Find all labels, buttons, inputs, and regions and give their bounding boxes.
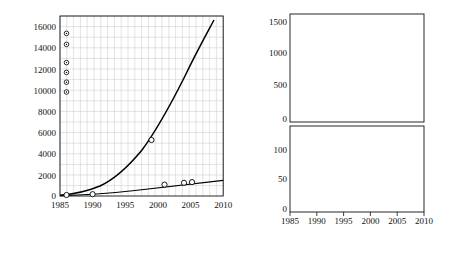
svg-text:2005: 2005 bbox=[182, 200, 201, 210]
milestone-marker-dot-icon bbox=[66, 44, 67, 45]
svg-text:2000: 2000 bbox=[361, 216, 380, 226]
svg-text:0: 0 bbox=[283, 204, 288, 214]
milestone-item bbox=[64, 90, 69, 95]
svg-text:2000: 2000 bbox=[149, 200, 168, 210]
svg-text:1990: 1990 bbox=[84, 200, 103, 210]
svg-text:2005: 2005 bbox=[388, 216, 407, 226]
svg-text:1995: 1995 bbox=[116, 200, 135, 210]
milestone-item bbox=[64, 70, 69, 75]
svg-text:8000: 8000 bbox=[38, 107, 57, 117]
svg-text:500: 500 bbox=[274, 80, 288, 90]
figure-root: 0 2000 4000 6000 8000 10000 12000 14000 … bbox=[0, 0, 452, 267]
svg-text:1990: 1990 bbox=[308, 216, 327, 226]
milestone-marker-dot-icon bbox=[66, 91, 67, 92]
marker-1999 bbox=[149, 137, 154, 142]
svg-text:14000: 14000 bbox=[34, 43, 57, 53]
milestone-item bbox=[64, 42, 69, 47]
svg-text:100: 100 bbox=[274, 145, 288, 155]
marker-2004 bbox=[181, 180, 186, 185]
background bbox=[0, 0, 452, 267]
svg-text:1985: 1985 bbox=[281, 216, 300, 226]
marker-1991 bbox=[90, 192, 95, 197]
svg-text:12000: 12000 bbox=[34, 65, 57, 75]
milestone-marker-dot-icon bbox=[66, 62, 67, 63]
milestone-marker-dot-icon bbox=[66, 72, 67, 73]
milestone-marker-dot-icon bbox=[66, 82, 67, 83]
svg-text:2000: 2000 bbox=[38, 171, 57, 181]
milestone-item bbox=[64, 31, 69, 36]
svg-text:2010: 2010 bbox=[415, 216, 434, 226]
svg-text:1985: 1985 bbox=[51, 200, 70, 210]
figure-svg: 0 2000 4000 6000 8000 10000 12000 14000 … bbox=[0, 0, 452, 267]
svg-text:10000: 10000 bbox=[34, 86, 57, 96]
marker-1986 bbox=[64, 192, 69, 197]
svg-text:0: 0 bbox=[283, 114, 288, 124]
svg-text:4000: 4000 bbox=[38, 149, 57, 159]
milestone-marker-dot-icon bbox=[66, 33, 67, 34]
svg-text:1995: 1995 bbox=[335, 216, 354, 226]
milestone-item bbox=[64, 60, 69, 65]
svg-text:2010: 2010 bbox=[214, 200, 233, 210]
svg-text:16000: 16000 bbox=[34, 22, 57, 32]
marker-2001 bbox=[162, 182, 167, 187]
marker-2005 bbox=[189, 180, 194, 185]
svg-text:50: 50 bbox=[278, 174, 288, 184]
svg-text:6000: 6000 bbox=[38, 128, 57, 138]
svg-text:1000: 1000 bbox=[269, 48, 288, 58]
svg-text:1500: 1500 bbox=[269, 17, 288, 27]
milestone-item bbox=[64, 80, 69, 85]
